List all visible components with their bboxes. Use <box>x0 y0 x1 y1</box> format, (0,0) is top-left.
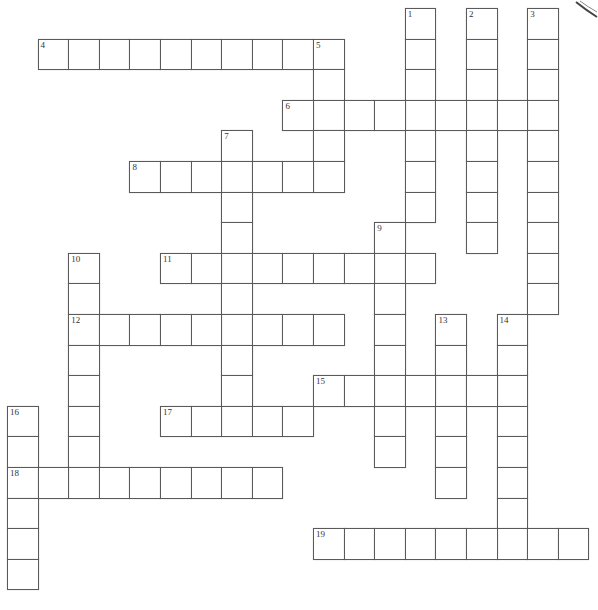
crossword-cell[interactable] <box>527 253 559 285</box>
crossword-cell[interactable] <box>374 283 406 315</box>
crossword-cell[interactable] <box>191 253 223 285</box>
crossword-cell[interactable] <box>405 161 437 193</box>
crossword-cell[interactable] <box>344 100 376 132</box>
crossword-cell[interactable] <box>435 436 467 468</box>
crossword-cell[interactable] <box>313 253 345 285</box>
crossword-cell[interactable] <box>313 314 345 346</box>
crossword-cell[interactable] <box>374 406 406 438</box>
crossword-cell[interactable] <box>282 253 314 285</box>
crossword-cell[interactable] <box>221 375 253 407</box>
crossword-cell[interactable] <box>405 192 437 224</box>
crossword-cell[interactable] <box>99 39 131 71</box>
crossword-cell[interactable] <box>99 467 131 499</box>
crossword-cell[interactable] <box>68 39 100 71</box>
crossword-cell[interactable]: 14 <box>497 314 529 346</box>
crossword-cell[interactable] <box>497 100 529 132</box>
crossword-cell[interactable] <box>129 314 161 346</box>
crossword-cell[interactable] <box>252 253 284 285</box>
crossword-cell[interactable]: 18 <box>7 467 39 499</box>
crossword-cell[interactable] <box>7 436 39 468</box>
crossword-cell[interactable]: 19 <box>313 528 345 560</box>
crossword-cell[interactable] <box>68 375 100 407</box>
crossword-cell[interactable] <box>405 39 437 71</box>
crossword-cell[interactable] <box>527 100 559 132</box>
crossword-cell[interactable] <box>466 100 498 132</box>
crossword-cell[interactable]: 5 <box>313 39 345 71</box>
crossword-cell[interactable] <box>435 375 467 407</box>
crossword-cell[interactable] <box>282 314 314 346</box>
crossword-cell[interactable] <box>221 314 253 346</box>
crossword-cell[interactable]: 11 <box>160 253 192 285</box>
crossword-cell[interactable] <box>497 345 529 377</box>
crossword-cell[interactable] <box>38 467 70 499</box>
crossword-cell[interactable] <box>344 253 376 285</box>
crossword-cell[interactable] <box>129 39 161 71</box>
crossword-cell[interactable] <box>191 467 223 499</box>
crossword-cell[interactable] <box>344 375 376 407</box>
crossword-cell[interactable] <box>252 314 284 346</box>
crossword-cell[interactable]: 10 <box>68 253 100 285</box>
crossword-cell[interactable] <box>374 528 406 560</box>
crossword-cell[interactable] <box>527 192 559 224</box>
crossword-cell[interactable] <box>68 467 100 499</box>
crossword-cell[interactable] <box>435 345 467 377</box>
crossword-cell[interactable] <box>466 528 498 560</box>
crossword-cell[interactable]: 7 <box>221 130 253 162</box>
crossword-cell[interactable] <box>497 436 529 468</box>
crossword-cell[interactable] <box>435 528 467 560</box>
crossword-cell[interactable] <box>221 467 253 499</box>
crossword-cell[interactable] <box>221 253 253 285</box>
crossword-cell[interactable] <box>435 467 467 499</box>
crossword-cell[interactable] <box>497 528 529 560</box>
crossword-cell[interactable] <box>466 161 498 193</box>
crossword-cell[interactable] <box>7 528 39 560</box>
crossword-cell[interactable] <box>221 345 253 377</box>
crossword-cell[interactable] <box>313 130 345 162</box>
crossword-cell[interactable]: 16 <box>7 406 39 438</box>
crossword-cell[interactable] <box>221 406 253 438</box>
crossword-cell[interactable] <box>191 406 223 438</box>
crossword-cell[interactable] <box>405 130 437 162</box>
crossword-cell[interactable] <box>68 406 100 438</box>
crossword-cell[interactable] <box>160 467 192 499</box>
crossword-cell[interactable] <box>221 192 253 224</box>
crossword-cell[interactable] <box>374 375 406 407</box>
crossword-cell[interactable] <box>466 192 498 224</box>
crossword-cell[interactable] <box>160 39 192 71</box>
crossword-cell[interactable] <box>466 69 498 101</box>
crossword-cell[interactable] <box>374 314 406 346</box>
crossword-cell[interactable] <box>374 253 406 285</box>
crossword-cell[interactable]: 1 <box>405 8 437 40</box>
crossword-cell[interactable] <box>7 559 39 591</box>
crossword-cell[interactable] <box>527 222 559 254</box>
crossword-cell[interactable] <box>374 345 406 377</box>
crossword-cell[interactable] <box>252 39 284 71</box>
crossword-cell[interactable]: 15 <box>313 375 345 407</box>
crossword-cell[interactable] <box>191 161 223 193</box>
crossword-cell[interactable] <box>466 375 498 407</box>
crossword-cell[interactable] <box>221 161 253 193</box>
crossword-cell[interactable] <box>435 100 467 132</box>
crossword-cell[interactable] <box>527 161 559 193</box>
crossword-cell[interactable] <box>527 528 559 560</box>
crossword-cell[interactable]: 13 <box>435 314 467 346</box>
crossword-cell[interactable] <box>374 436 406 468</box>
crossword-cell[interactable] <box>221 39 253 71</box>
crossword-cell[interactable] <box>527 283 559 315</box>
crossword-cell[interactable] <box>497 406 529 438</box>
crossword-cell[interactable] <box>191 314 223 346</box>
crossword-cell[interactable] <box>313 100 345 132</box>
crossword-cell[interactable] <box>282 39 314 71</box>
crossword-cell[interactable] <box>282 161 314 193</box>
crossword-cell[interactable] <box>221 283 253 315</box>
crossword-cell[interactable]: 2 <box>466 8 498 40</box>
crossword-cell[interactable] <box>405 375 437 407</box>
crossword-cell[interactable]: 12 <box>68 314 100 346</box>
crossword-cell[interactable] <box>497 467 529 499</box>
crossword-cell[interactable] <box>497 498 529 530</box>
crossword-cell[interactable] <box>405 253 437 285</box>
crossword-cell[interactable] <box>160 314 192 346</box>
crossword-cell[interactable] <box>99 314 131 346</box>
crossword-cell[interactable] <box>527 130 559 162</box>
crossword-cell[interactable] <box>405 528 437 560</box>
